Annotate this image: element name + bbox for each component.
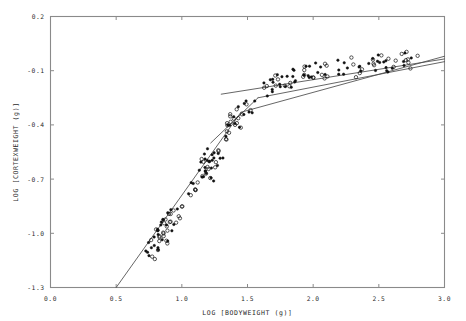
overall-regression xyxy=(221,59,444,94)
data-point xyxy=(211,159,214,162)
x-tick-label: 1.0 xyxy=(175,295,188,302)
data-point xyxy=(319,66,322,69)
data-point xyxy=(202,175,205,178)
data-point xyxy=(337,73,340,76)
data-point xyxy=(403,64,406,67)
data-point xyxy=(147,241,150,244)
data-point xyxy=(228,115,231,118)
data-point xyxy=(150,246,153,249)
secondary-regression-upper xyxy=(258,62,444,98)
data-point xyxy=(245,100,248,103)
data-point xyxy=(314,62,317,64)
data-point xyxy=(410,57,413,60)
y-tick-label: -1.3 xyxy=(27,284,44,291)
data-point xyxy=(198,169,201,172)
x-tick-label: 3.0 xyxy=(438,295,451,302)
data-point xyxy=(212,180,215,183)
data-point xyxy=(358,65,361,68)
y-tick-label: -0.1 xyxy=(27,67,44,74)
data-point xyxy=(243,113,246,116)
data-point xyxy=(292,68,295,71)
data-point xyxy=(307,74,310,77)
data-point xyxy=(346,67,349,70)
data-point xyxy=(213,157,216,160)
data-point xyxy=(153,244,156,247)
x-tick-label: 1.5 xyxy=(241,295,254,302)
scatter-plot-svg: 0.00.51.01.52.02.53.0 0.2-0.1-0.4-0.7-1.… xyxy=(0,0,466,321)
data-point xyxy=(206,148,209,151)
data-point xyxy=(222,157,225,160)
data-point xyxy=(211,153,214,156)
data-point xyxy=(203,153,206,156)
segmented-fit-lower xyxy=(116,112,241,287)
data-points-group xyxy=(145,50,420,261)
data-point xyxy=(294,80,297,83)
data-point xyxy=(153,257,156,260)
data-point xyxy=(263,82,266,85)
data-point xyxy=(166,229,169,232)
data-point xyxy=(214,160,217,163)
data-point xyxy=(229,120,232,123)
data-point xyxy=(266,95,269,98)
data-point xyxy=(352,63,355,66)
data-point xyxy=(385,60,388,63)
data-point xyxy=(248,111,251,114)
data-point xyxy=(174,221,177,224)
x-tick-label: 2.0 xyxy=(307,295,320,302)
data-point xyxy=(337,59,340,62)
segmented-fit-upper xyxy=(241,56,445,112)
data-point xyxy=(342,73,345,76)
data-point xyxy=(162,219,165,222)
data-point xyxy=(387,57,390,60)
data-point xyxy=(279,85,282,88)
x-axis-label: LOG [BODYWEIGHT (g)] xyxy=(202,309,292,317)
data-point xyxy=(157,248,160,251)
fit-lines-group xyxy=(116,56,444,287)
data-point xyxy=(167,212,170,215)
data-point xyxy=(232,116,235,119)
data-point xyxy=(281,75,284,78)
data-point xyxy=(286,75,289,78)
data-point xyxy=(253,100,256,103)
y-tick-label: -0.7 xyxy=(27,176,44,183)
data-point xyxy=(400,52,403,55)
data-point xyxy=(158,239,161,242)
data-point xyxy=(146,251,149,254)
data-point xyxy=(271,78,274,81)
data-point xyxy=(394,59,397,62)
data-point xyxy=(377,54,380,57)
y-tick-label: 0.2 xyxy=(32,13,45,20)
data-point xyxy=(161,238,164,241)
data-point xyxy=(290,86,293,89)
data-point xyxy=(359,70,362,73)
figure-canvas: 0.00.51.01.52.02.53.0 0.2-0.1-0.4-0.7-1.… xyxy=(0,0,466,321)
data-point xyxy=(153,236,156,239)
y-tick-label: -0.4 xyxy=(27,121,44,128)
data-point xyxy=(308,65,311,68)
data-point xyxy=(176,208,179,211)
data-point xyxy=(338,69,341,72)
data-point xyxy=(271,90,274,93)
data-point xyxy=(378,61,381,64)
data-point xyxy=(343,62,346,65)
data-point xyxy=(317,71,320,74)
data-point xyxy=(278,83,281,86)
data-point xyxy=(219,157,222,160)
data-point xyxy=(292,75,295,78)
data-point xyxy=(225,135,228,138)
data-point xyxy=(170,208,173,211)
data-point xyxy=(190,181,193,184)
data-point xyxy=(227,124,230,127)
data-point xyxy=(213,166,216,169)
x-tick-label: 2.5 xyxy=(372,295,385,302)
data-point xyxy=(208,160,211,163)
x-tick-label: 0.5 xyxy=(110,295,123,302)
data-point xyxy=(269,78,272,81)
data-point xyxy=(303,68,306,71)
y-axis-label: LOG [CORTEXWEIGHT (g)] xyxy=(12,102,20,201)
data-point xyxy=(368,62,371,65)
data-point xyxy=(160,221,163,224)
data-point xyxy=(320,73,323,76)
data-point xyxy=(213,152,216,155)
data-point xyxy=(276,73,279,76)
